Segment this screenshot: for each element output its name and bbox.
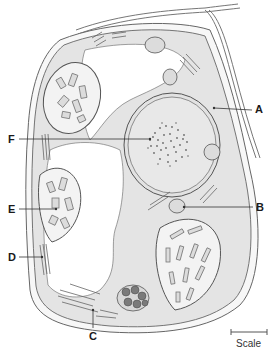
scale-label: Scale (236, 338, 261, 349)
cell-diagram (0, 0, 276, 354)
label-d: D (8, 252, 16, 263)
label-e: E (8, 204, 15, 215)
scale-bar (231, 329, 267, 335)
label-c: C (89, 331, 97, 342)
starch-grains (117, 285, 149, 311)
nucleus (124, 93, 220, 197)
label-b: B (256, 202, 264, 213)
label-f: F (8, 134, 15, 145)
label-a: A (255, 104, 263, 115)
